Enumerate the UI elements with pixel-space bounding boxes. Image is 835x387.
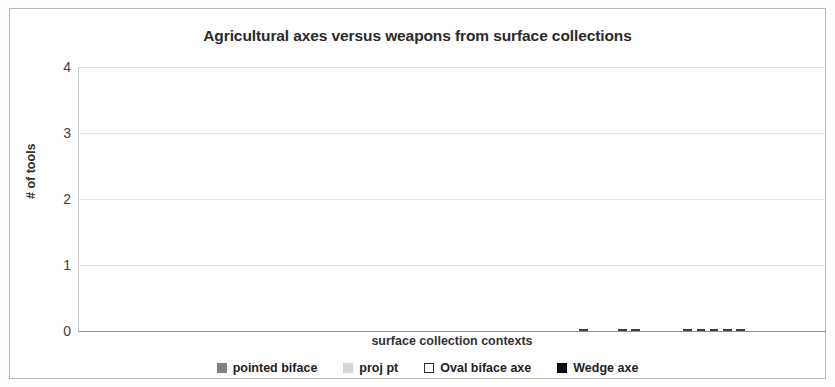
bar-slot[interactable] [302, 67, 315, 331]
chart-legend: pointed bifaceproj ptOval biface axeWedg… [10, 361, 835, 375]
bar-slot[interactable] [563, 67, 576, 331]
bar-slot[interactable] [485, 67, 498, 331]
chart-page: Agricultural axes versus weapons from su… [0, 0, 835, 387]
bar-slot[interactable] [341, 67, 354, 331]
bar-segment-oval [631, 329, 640, 331]
bar-slot[interactable] [708, 67, 721, 331]
bar-slot[interactable] [406, 67, 419, 331]
bar-slot[interactable] [433, 67, 446, 331]
bar-slot[interactable] [472, 67, 485, 331]
bar-stack [683, 329, 692, 331]
y-axis-tick-label: 4 [63, 59, 71, 75]
legend-swatch-pointed [217, 363, 227, 373]
bar-slot[interactable] [616, 67, 629, 331]
bar-slot[interactable] [289, 67, 302, 331]
bar-segment-oval [736, 329, 745, 331]
bar-slot[interactable] [367, 67, 380, 331]
bar-slot[interactable] [537, 67, 550, 331]
y-axis-tick-label: 3 [63, 125, 71, 141]
legend-swatch-wedge [557, 363, 567, 373]
bar-slot[interactable] [210, 67, 223, 331]
bar-segment-oval [683, 329, 692, 331]
bar-slot[interactable] [393, 67, 406, 331]
bar-segment-oval [723, 329, 732, 331]
legend-swatch-proj [343, 363, 353, 373]
bar-slot[interactable] [577, 67, 590, 331]
y-axis-tick-label: 1 [63, 257, 71, 273]
bar-slot[interactable] [328, 67, 341, 331]
bar-slot[interactable] [236, 67, 249, 331]
legend-label: Wedge axe [573, 361, 638, 375]
bar-slot[interactable] [275, 67, 288, 331]
bar-slot[interactable] [105, 67, 118, 331]
bar-slot[interactable] [184, 67, 197, 331]
bar-slot[interactable] [642, 67, 655, 331]
bar-series-container [79, 67, 826, 331]
legend-label: proj pt [359, 361, 398, 375]
bar-slot[interactable] [262, 67, 275, 331]
bar-slot[interactable] [131, 67, 144, 331]
y-axis-tick-label: 2 [63, 191, 71, 207]
bar-stack [710, 329, 719, 331]
bar-slot[interactable] [158, 67, 171, 331]
bar-slot[interactable] [629, 67, 642, 331]
bar-slot[interactable] [419, 67, 432, 331]
legend-label: Oval biface axe [440, 361, 531, 375]
legend-item[interactable]: pointed biface [217, 361, 318, 375]
bar-slot[interactable] [694, 67, 707, 331]
bar-slot[interactable] [655, 67, 668, 331]
bar-slot[interactable] [812, 67, 825, 331]
bar-slot[interactable] [681, 67, 694, 331]
bar-stack [579, 329, 588, 331]
bar-stack [736, 329, 745, 331]
bar-slot[interactable] [171, 67, 184, 331]
bar-slot[interactable] [92, 67, 105, 331]
bar-slot[interactable] [79, 67, 92, 331]
legend-item[interactable]: proj pt [343, 361, 398, 375]
bar-slot[interactable] [144, 67, 157, 331]
bar-slot[interactable] [459, 67, 472, 331]
bar-slot[interactable] [550, 67, 563, 331]
bar-slot[interactable] [668, 67, 681, 331]
bar-slot[interactable] [734, 67, 747, 331]
bar-slot[interactable] [511, 67, 524, 331]
bar-slot[interactable] [603, 67, 616, 331]
bar-segment-oval [697, 329, 706, 331]
legend-label: pointed biface [233, 361, 318, 375]
chart-frame: Agricultural axes versus weapons from su… [9, 8, 826, 379]
bar-slot[interactable] [197, 67, 210, 331]
bar-slot[interactable] [223, 67, 236, 331]
bar-slot[interactable] [721, 67, 734, 331]
bar-slot[interactable] [760, 67, 773, 331]
bar-slot[interactable] [118, 67, 131, 331]
legend-item[interactable]: Wedge axe [557, 361, 638, 375]
bar-segment-oval [579, 329, 588, 331]
bar-slot[interactable] [786, 67, 799, 331]
bar-slot[interactable] [498, 67, 511, 331]
bar-slot[interactable] [773, 67, 786, 331]
bar-segment-oval [710, 329, 719, 331]
bar-slot[interactable] [354, 67, 367, 331]
bar-slot[interactable] [590, 67, 603, 331]
y-axis-label: # of tools [24, 143, 38, 199]
bar-segment-oval [618, 329, 627, 331]
bar-stack [723, 329, 732, 331]
plot-area: 01234 [78, 67, 826, 332]
chart-title: Agricultural axes versus weapons from su… [10, 27, 825, 45]
bar-slot[interactable] [446, 67, 459, 331]
bar-stack [631, 329, 640, 331]
bar-stack [618, 329, 627, 331]
bar-stack [697, 329, 706, 331]
bar-slot[interactable] [315, 67, 328, 331]
bar-slot[interactable] [524, 67, 537, 331]
bar-slot[interactable] [799, 67, 812, 331]
legend-swatch-oval [424, 363, 434, 373]
bar-slot[interactable] [249, 67, 262, 331]
bar-slot[interactable] [747, 67, 760, 331]
y-axis-tick-label: 0 [63, 323, 71, 339]
x-axis-label: surface collection contexts [78, 334, 826, 348]
legend-item[interactable]: Oval biface axe [424, 361, 531, 375]
bar-slot[interactable] [380, 67, 393, 331]
